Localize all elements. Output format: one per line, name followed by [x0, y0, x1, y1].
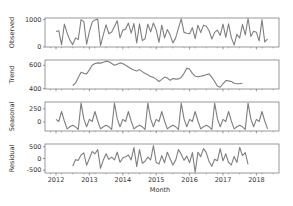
y-tick-label: 0 [37, 118, 41, 126]
x-tick-label: 2016 [181, 176, 198, 184]
y-tick-label: 600 [29, 61, 41, 69]
y-tick-label: 500 [29, 143, 41, 151]
y-tick-label: 0 [37, 43, 41, 51]
axes-frame [45, 144, 279, 173]
panel-residual: -5000500Residual [8, 143, 279, 175]
y-tick-label: -500 [27, 166, 42, 174]
y-tick-label: 250 [29, 105, 41, 113]
x-tick-label: 2013 [81, 176, 98, 184]
y-axis-label: Residual [8, 145, 16, 173]
axes-frame [45, 18, 279, 47]
x-axis-label: Month [150, 186, 170, 194]
x-tick-label: 2015 [148, 176, 165, 184]
panel-observed: 01000Observed [8, 16, 279, 52]
seasonal-decomposition-figure: 01000Observed400600Trend0250Seasonal-500… [0, 0, 293, 206]
y-tick-label: 400 [29, 85, 41, 93]
y-axis-label: Trend [8, 66, 16, 85]
panel-trend: 400600Trend [8, 60, 279, 93]
panel-seasonal: 0250Seasonal [8, 102, 279, 134]
x-tick-label: 2017 [215, 176, 232, 184]
x-tick-label: 2014 [115, 176, 132, 184]
y-axis-label: Observed [8, 17, 16, 48]
x-tick-label: 2012 [48, 176, 65, 184]
x-tick-label: 2018 [248, 176, 265, 184]
y-axis-label: Seasonal [8, 102, 16, 132]
y-tick-label: 1000 [25, 16, 42, 24]
y-tick-label: 0 [37, 155, 41, 163]
